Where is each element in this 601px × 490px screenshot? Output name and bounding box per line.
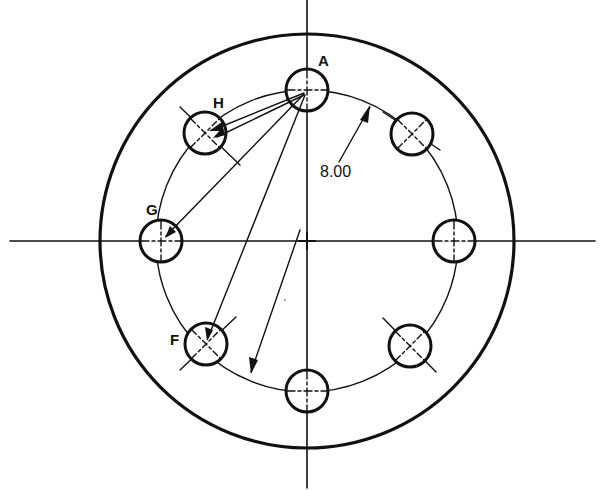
bolt-circle-drawing: A H G F 8.00 xyxy=(0,0,601,490)
label-f: F xyxy=(170,331,179,348)
dimension-arrowheads xyxy=(249,105,370,374)
bolt-hole-e xyxy=(433,220,475,262)
dimension-label: 8.00 xyxy=(320,163,351,180)
chord-arrowheads xyxy=(165,122,226,341)
label-h: H xyxy=(213,94,224,111)
diameter-dimension-line xyxy=(251,107,370,372)
bolt-hole-a xyxy=(286,69,328,111)
bolt-hole-se xyxy=(389,325,431,367)
bolt-hole-s xyxy=(286,370,328,412)
label-a: A xyxy=(318,52,329,69)
label-g: G xyxy=(146,201,158,218)
bolt-hole-ne xyxy=(391,113,433,155)
center-mark xyxy=(299,233,315,249)
